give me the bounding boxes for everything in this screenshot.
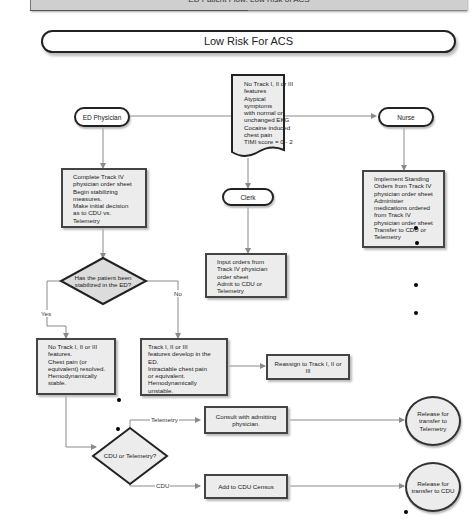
stray-dot	[414, 311, 418, 315]
clerk-action-box: Input orders from Track IV physician ord…	[205, 253, 287, 298]
role-ed-physician: ED Physician	[74, 107, 130, 127]
edge-label-no: No	[173, 290, 183, 297]
nurse-action-box: Implement Standing Orders from Track IV …	[362, 170, 445, 248]
consult-box: Consult with admitting physician.	[204, 406, 288, 434]
decision-cdu-telemetry-label: CDU or Telemetry?	[97, 452, 163, 459]
role-nurse: Nurse	[378, 107, 434, 127]
stray-dot	[414, 226, 418, 230]
stable-outcome-box: No Track I, II or III features. Chest pa…	[36, 338, 116, 395]
release-telemetry-endpoint: Release for transfer to Telemetry	[405, 396, 461, 446]
stray-dot	[404, 510, 408, 514]
stray-dot	[414, 283, 418, 287]
stray-dot	[117, 398, 121, 402]
add-cdu-census-box: Add to CDU Census	[204, 474, 288, 499]
role-clerk: Clerk	[222, 188, 274, 206]
decision-stabilized-label: Has the patient been stabilized in the E…	[66, 274, 140, 289]
edge-label-telemetry: Telemetry	[150, 416, 179, 423]
stray-dot	[415, 241, 419, 245]
edge-label-cdu: CDU	[155, 482, 170, 489]
stray-dot	[116, 427, 120, 431]
physician-action-box: Complete Track IV physician order sheet …	[61, 168, 147, 228]
unstable-outcome-box: Track I, II or III features develop in t…	[140, 338, 228, 396]
start-criteria: No Track I, II or III features Atypical …	[244, 80, 294, 146]
edge-label-yes: Yes	[40, 310, 52, 317]
reassign-box: Reassign to Track I, II or III	[266, 354, 350, 380]
release-cdu-endpoint: Release for transfer to CDU	[405, 462, 461, 512]
